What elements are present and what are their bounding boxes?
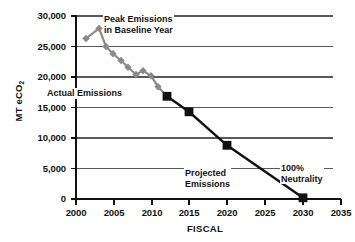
annotation-neutrality: 100% Neutrality xyxy=(280,163,324,184)
y-axis-title-text: MT eCO xyxy=(13,84,24,121)
y-axis-title: MT eCO2 xyxy=(8,66,26,136)
annotation-projected-emissions: Projected Emissions xyxy=(184,168,231,189)
xtick-label-2010: 2010 xyxy=(135,207,169,218)
xtick-label-2030: 2030 xyxy=(286,207,320,218)
xtick-label-2020: 2020 xyxy=(210,207,244,218)
y-axis-title-subscript: 2 xyxy=(18,81,25,85)
annotation-peak-line2: in Baseline Year xyxy=(104,25,173,36)
ytick-label-15000: 15,000 xyxy=(22,102,66,113)
xtick-label-2015: 2015 xyxy=(172,207,206,218)
ytick-label-25000: 25,000 xyxy=(22,41,66,52)
marker-2013 xyxy=(163,92,172,101)
series-actual-emissions xyxy=(82,25,167,97)
annotation-peak-emissions: Peak Emissions in Baseline Year xyxy=(103,14,174,35)
ytick-label-5000: 5,000 xyxy=(22,163,66,174)
annotation-neutrality-line2: Neutrality xyxy=(281,174,323,185)
annotation-actual-line1: Actual Emissions xyxy=(47,88,122,99)
chart-canvas xyxy=(0,0,355,242)
ytick-label-0: 0 xyxy=(22,193,66,204)
xtick-label-2035: 2035 xyxy=(324,207,355,218)
y-axis xyxy=(71,15,76,200)
xtick-label-2000: 2000 xyxy=(59,207,93,218)
xtick-label-2005: 2005 xyxy=(97,207,131,218)
xtick-label-2025: 2025 xyxy=(248,207,282,218)
ytick-label-20000: 20,000 xyxy=(22,71,66,82)
annotation-projected-line2: Emissions xyxy=(185,179,230,190)
annotation-neutrality-line1: 100% xyxy=(281,163,323,174)
annotation-actual-emissions: Actual Emissions xyxy=(46,88,123,99)
ytick-label-10000: 10,000 xyxy=(22,132,66,143)
annotation-peak-line1: Peak Emissions xyxy=(104,14,173,25)
x-axis-title: FISCAL xyxy=(187,223,223,234)
marker-2030 xyxy=(299,193,308,202)
ytick-label-30000: 30,000 xyxy=(22,10,66,21)
marker-2020 xyxy=(223,141,232,150)
emissions-chart: 30,000 25,000 20,000 15,000 10,000 5,000… xyxy=(0,0,355,242)
marker-2015 xyxy=(185,107,194,116)
annotation-projected-line1: Projected xyxy=(185,168,230,179)
